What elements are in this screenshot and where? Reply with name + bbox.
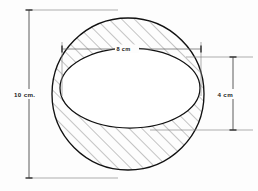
geometry-figure-svg: 10 cm. 8 cm xyxy=(0,0,258,191)
geometry-figure-container: 10 cm. 8 cm xyxy=(0,0,258,191)
dimension-top-label: 8 cm xyxy=(117,46,131,52)
dimension-right-label: 4 cm xyxy=(218,91,234,98)
dimension-left-label: 10 cm. xyxy=(14,91,35,98)
inner-ellipse-outline xyxy=(60,48,200,128)
